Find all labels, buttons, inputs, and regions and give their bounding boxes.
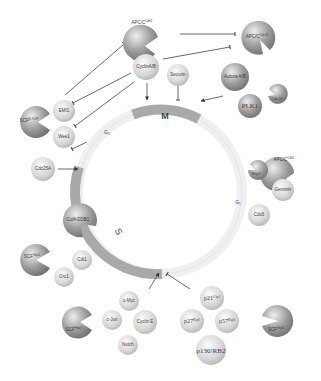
svg-text:EMI1: EMI1 [59, 108, 70, 113]
substrate-p57: p57Kip2 [215, 309, 239, 333]
svg-text:APC/CCdh1: APC/CCdh1 [132, 19, 153, 25]
svg-text:Wee1: Wee1 [58, 134, 70, 139]
substrate-p21: p21Cip1 [200, 286, 224, 310]
substrate-cdc6: Cdc6 [248, 204, 270, 226]
svg-text:c-Jun: c-Jun [106, 317, 118, 322]
substrate-cyclin-e: Cyclin E [133, 310, 157, 334]
svg-text:Cdc20: Cdc20 [271, 96, 283, 101]
phase-label-m: M [161, 111, 169, 121]
substrate-emi1: EMI1 [53, 100, 75, 122]
substrate-cyclin-ab: CyclinA/B [133, 54, 159, 80]
svg-text:Geminin: Geminin [275, 187, 292, 192]
svg-text:Notch: Notch [122, 342, 134, 347]
substrate-geminin: Geminin [272, 179, 294, 201]
ligase-apc-cdh1-top: APC/CCdh1 [123, 19, 158, 61]
svg-text:CyclinA/B: CyclinA/B [136, 64, 156, 69]
ligase-scf-fbw7: SCFFbw7 [62, 307, 92, 339]
ligase-scf-skp2-right: SCFSkp2 [262, 305, 293, 337]
substrate-cdt1: Cdt1 [72, 250, 92, 270]
ligase-apc-cdc20: APC/CCdc20 [241, 21, 275, 55]
ligase-cdc20: Cdc20 [268, 84, 288, 104]
substrate-p130-rb2: p130/RB2 [196, 335, 226, 365]
svg-text:Securin: Securin [170, 72, 186, 77]
svg-text:Cdc25A: Cdc25A [35, 166, 51, 171]
cell-cycle-ring [75, 110, 242, 275]
ligase-skp2: Skp2 [248, 160, 268, 180]
svg-text:Cdc6: Cdc6 [254, 212, 265, 217]
svg-text:APC/CCdh1: APC/CCdh1 [274, 156, 295, 162]
substrate-aurora-ab: Aurora A/B [221, 63, 249, 91]
svg-text:p130/RB2: p130/RB2 [197, 347, 226, 355]
svg-text:Cul4-DDB1: Cul4-DDB1 [67, 217, 90, 222]
cell-cycle-diagram: M S G₂ G₁ APC/CCdh1 APC/CCdc20 SCFβ-TrCP… [0, 0, 321, 381]
substrate-securin: Securin [167, 64, 189, 86]
substrate-c-myc: c-Myc [119, 291, 139, 311]
substrate-cdc25a: Cdc25A [31, 157, 55, 181]
ligase-scf-btrcp: SCFβ-TrCP [20, 106, 50, 138]
svg-text:Aurora A/B: Aurora A/B [224, 74, 246, 79]
substrate-p27: p27Kip1 [180, 309, 204, 333]
svg-text:c-Myc: c-Myc [123, 298, 136, 303]
svg-text:Orc1: Orc1 [59, 274, 69, 279]
substrate-wee1: Wee1 [53, 126, 75, 148]
substrate-notch: Notch [118, 335, 138, 355]
substrate-orc1: Orc1 [54, 267, 74, 287]
svg-text:Cyclin E: Cyclin E [137, 319, 154, 324]
svg-text:Cdt1: Cdt1 [77, 257, 87, 262]
phase-label-g1: G₁ [235, 199, 241, 205]
ligase-scf-skp2-left: SCFSkp2 [20, 244, 50, 276]
phase-label-g2: G₂ [104, 129, 110, 135]
svg-text:PLK1: PLK1 [242, 102, 259, 110]
svg-text:Skp2: Skp2 [251, 171, 261, 176]
substrate-c-jun: c-Jun [102, 310, 122, 330]
phase-label-s: S [113, 227, 125, 237]
substrate-plk1: PLK1 [238, 94, 262, 118]
